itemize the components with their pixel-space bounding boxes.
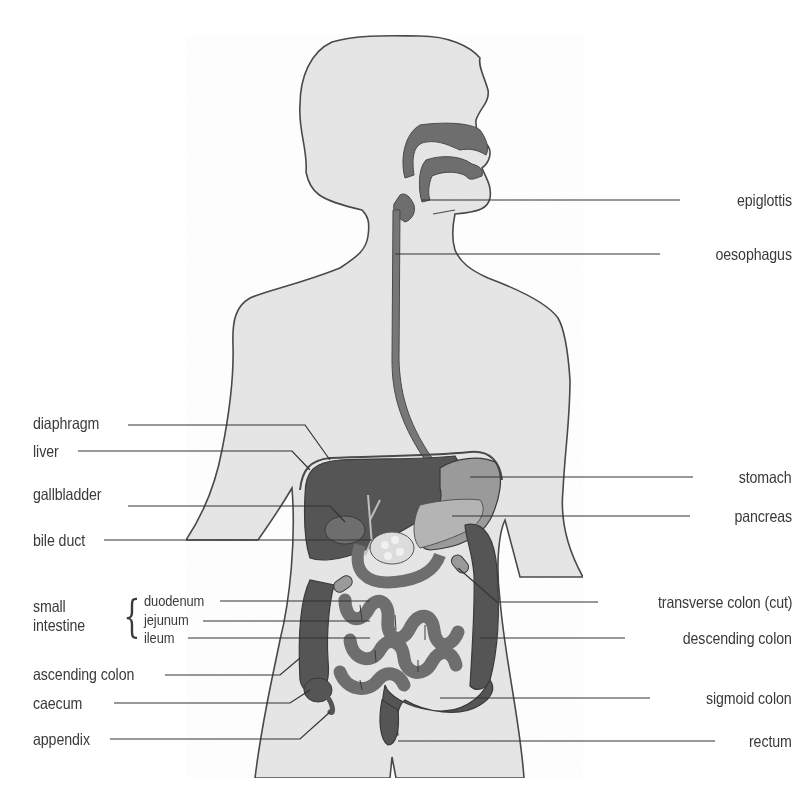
label-epiglottis: epiglottis <box>737 191 792 209</box>
label-rectum: rectum <box>749 732 792 750</box>
small-intestine-brace: { <box>124 595 141 639</box>
label-transverse-colon: transverse colon (cut) <box>657 593 792 611</box>
label-ascending-colon: ascending colon <box>33 665 134 683</box>
label-diaphragm: diaphragm <box>33 414 99 432</box>
label-ileum: ileum <box>144 629 174 647</box>
label-small-intestine-1: small <box>33 597 66 615</box>
label-bile-duct: bile duct <box>33 531 85 549</box>
label-pancreas: pancreas <box>734 507 792 525</box>
body-outline <box>186 36 583 778</box>
label-stomach: stomach <box>739 468 792 486</box>
pancreas-head <box>370 532 414 564</box>
label-liver: liver <box>33 442 59 460</box>
label-duodenum: duodenum <box>144 592 204 610</box>
label-small-intestine-2: intestine <box>33 616 85 634</box>
label-oesophagus: oesophagus <box>716 245 792 263</box>
label-jejunum: jejunum <box>144 611 189 629</box>
label-descending-colon: descending colon <box>683 629 792 647</box>
label-sigmoid-colon: sigmoid colon <box>706 689 792 707</box>
label-caecum: caecum <box>33 694 82 712</box>
label-gallbladder: gallbladder <box>33 485 101 503</box>
body-silhouette <box>186 36 583 778</box>
label-appendix: appendix <box>33 730 90 748</box>
